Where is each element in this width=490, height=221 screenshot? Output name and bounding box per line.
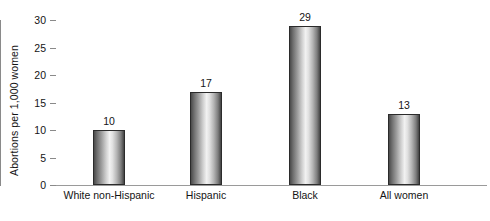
y-axis-tick-label: 15	[2, 97, 46, 109]
x-axis-line	[55, 185, 487, 186]
y-axis-tick-label: 0	[2, 179, 46, 191]
x-axis-category-label: All women	[380, 189, 428, 201]
bar-value-label: 29	[299, 11, 311, 23]
y-axis-tick-mark	[50, 48, 56, 49]
x-axis-category-label: Hispanic	[186, 189, 226, 201]
bar	[93, 130, 125, 185]
y-axis-tick-label: 25	[2, 42, 46, 54]
y-axis-tick-mark	[50, 185, 56, 186]
x-axis-category-label: White non-Hispanic	[63, 189, 154, 201]
x-axis-category-label: Black	[292, 189, 318, 201]
y-axis-tick-mark	[50, 103, 56, 104]
y-axis-tick-label: 10	[2, 124, 46, 136]
bar-group: 29	[289, 20, 321, 185]
y-axis-tick-label: 30	[2, 14, 46, 26]
y-axis-tick-mark	[50, 20, 56, 21]
y-axis-tick-label: 5	[2, 152, 46, 164]
bar	[388, 114, 420, 186]
y-axis-tick-label: 20	[2, 69, 46, 81]
bar-chart: Abortions per 1,000 women 051015202530 1…	[0, 0, 490, 221]
bar-group: 17	[190, 20, 222, 185]
bar-value-label: 13	[398, 99, 410, 111]
bar-value-label: 10	[103, 115, 115, 127]
y-axis-line	[0, 20, 1, 186]
y-axis-tick-mark	[50, 130, 56, 131]
bar-group: 13	[388, 20, 420, 185]
y-axis-tick-mark	[50, 75, 56, 76]
y-axis-tick-mark	[50, 158, 56, 159]
bar-value-label: 17	[200, 77, 212, 89]
bar	[190, 92, 222, 186]
bar	[289, 26, 321, 186]
bar-group: 10	[93, 20, 125, 185]
